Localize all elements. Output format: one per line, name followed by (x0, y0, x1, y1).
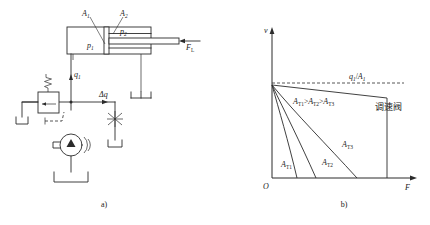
caption-a: a) (101, 200, 108, 209)
pump-drive-arc-inner (88, 139, 90, 151)
x-axis-label: F (404, 183, 410, 192)
bypass-arrow-head (102, 100, 108, 104)
x-axis-arrow (410, 176, 417, 181)
svg-text:A1: A1 (81, 9, 90, 19)
load-arrow-head (179, 39, 185, 43)
origin-label: O (263, 182, 269, 191)
throttle-valve-symbol (107, 111, 123, 127)
bypass-flow-arrow (102, 100, 108, 104)
curve-speed-control-valve (272, 85, 387, 98)
asymptote-label: q1/A1 (349, 72, 366, 82)
circuit-diagram: A1 A2 p1 p2 F (16, 9, 200, 209)
relief-valve-tank (16, 117, 28, 124)
figure-root: A1 A2 p1 p2 F (0, 0, 430, 225)
curve-label-AT1: AT1 (280, 160, 292, 170)
pump-shaft (53, 142, 60, 148)
junction-dot (70, 101, 73, 104)
area-head-sub: 1 (87, 13, 90, 19)
pump-drive-arc-outer (84, 137, 87, 153)
label-bypass-flow: Δq (98, 90, 108, 99)
flow-arrow-q1 (69, 74, 73, 80)
figure-svg: A1 A2 p1 p2 F (0, 0, 430, 225)
throttle-tank (108, 140, 122, 147)
load-force-arrow: FL (179, 39, 200, 53)
max-velocity-asymptote: q1/A1 (272, 72, 404, 83)
speed-control-valve-label: 调速阀 (375, 102, 402, 112)
piston-rod (109, 38, 179, 44)
cylinder-piston (104, 27, 109, 54)
velocity-force-chart: v F O q1/A1 AT1 (263, 26, 417, 209)
area-order-annotation: AT1>AT2>AT3 (292, 97, 334, 107)
hydraulic-pump (53, 134, 90, 182)
label-flow-in: q1 (74, 70, 81, 80)
area-rod-sub: 2 (125, 13, 128, 19)
caption-b: b) (341, 200, 348, 209)
throttle-valve (107, 102, 123, 147)
relief-valve-drain (22, 102, 38, 117)
y-axis-arrow (270, 27, 275, 34)
curve-label-AT3: AT3 (341, 140, 353, 150)
y-axis: v (264, 26, 274, 178)
svg-text:A2: A2 (119, 9, 128, 19)
relief-valve-spring (45, 74, 52, 92)
label-load-force: FL (185, 43, 194, 53)
x-axis: F (272, 176, 417, 192)
curve-label-AT2: AT2 (321, 158, 333, 168)
pump-tank (54, 172, 88, 182)
y-axis-label: v (264, 26, 268, 35)
hydraulic-cylinder (67, 27, 179, 98)
relief-valve (16, 74, 64, 125)
relief-valve-body (38, 92, 59, 113)
